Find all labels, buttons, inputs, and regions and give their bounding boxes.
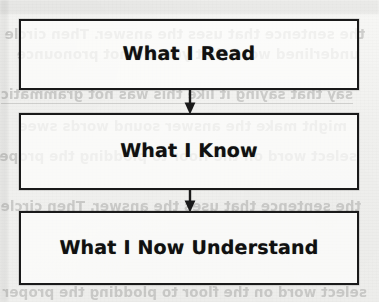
scan-edge-artifact	[0, 0, 8, 302]
flow-connector-know-to-understand	[184, 189, 196, 213]
flow-connector-read-to-know	[184, 89, 196, 115]
flow-node-know[interactable]: What I Know	[19, 113, 359, 190]
flow-node-label: What I Know	[120, 142, 258, 161]
down-arrow-icon	[184, 189, 196, 213]
scan-edge-artifact	[0, 0, 379, 14]
flow-node-understand[interactable]: What I Now Understand	[19, 211, 359, 285]
scanned-page: the sentence that uses the answer. Then …	[0, 0, 379, 302]
flow-node-read[interactable]: What I Read	[19, 19, 359, 90]
bleed-line: select word on the floor to plodding the…	[3, 284, 367, 300]
flow-node-label: What I Read	[123, 45, 256, 64]
down-arrow-icon	[184, 89, 196, 115]
flow-node-label: What I Now Understand	[59, 239, 318, 258]
